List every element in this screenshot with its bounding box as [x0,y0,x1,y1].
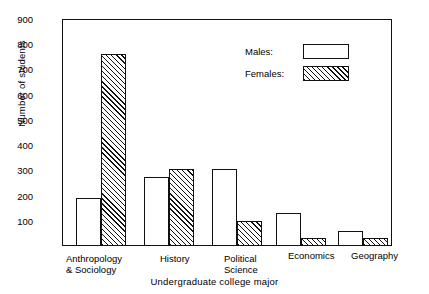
x-tick-label-line2-sociology: & Sociology [66,264,122,275]
legend-label-males: Males: [245,46,303,57]
legend-entry-males: Males: [245,44,349,59]
x-tick-label-economics: Economics [288,250,334,261]
y-tick-label-900: 900 [0,14,33,25]
bar-group-anthropology-sociology [76,54,126,246]
y-tick-label-500: 500 [0,114,33,125]
x-axis-title: Undergraduate college major [0,276,429,287]
x-tick-label-line1-political: Political [224,253,257,264]
legend-entry-females: Females: [245,66,349,81]
bar-group-geography [338,231,388,246]
y-tick-label-600: 600 [0,89,33,100]
x-tick-label-line1-geography: Geography [351,250,398,261]
bar-males-economics [276,213,301,246]
x-tick-label-line1-history: History [160,253,190,264]
bar-chart: Number of students 900 800 700 600 500 4… [0,0,429,294]
y-tick-label-200: 200 [0,190,33,201]
bar-group-economics [276,213,326,246]
x-tick-label-history: History [160,253,190,264]
legend-label-females: Females: [245,68,303,79]
bar-females-anthropology-sociology [101,54,126,246]
bar-males-history [144,177,169,246]
x-tick-label-geography: Geography [351,250,398,261]
bar-females-economics [301,238,326,246]
x-tick-label-line2-science: Science [224,264,258,275]
y-tick-label-300: 300 [0,165,33,176]
bar-males-political-science [212,169,237,246]
x-tick-label-line1-economics: Economics [288,250,334,261]
y-tick-label-800: 800 [0,39,33,50]
legend: Males: Females: [245,44,349,88]
bar-males-anthropology-sociology [76,198,101,246]
bar-females-geography [363,238,388,246]
bar-females-political-science [237,221,262,246]
x-tick-label-anthropology-sociology: Anthropology & Sociology [66,253,122,275]
bar-group-political-science [212,169,262,246]
legend-swatch-males-open-box [303,44,349,59]
y-tick-label-400: 400 [0,140,33,151]
x-tick-label-line1-anthropology: Anthropology [66,253,122,264]
y-tick-label-100: 100 [0,215,33,226]
legend-swatch-females-hatched-box [303,66,349,81]
bar-females-history [169,169,194,246]
bar-group-history [144,169,194,246]
y-tick-label-700: 700 [0,64,33,75]
x-tick-label-political-science: Political Science [224,253,258,275]
bar-males-geography [338,231,363,246]
